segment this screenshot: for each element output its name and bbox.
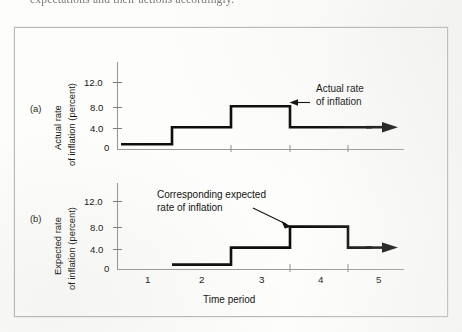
panel-b-annotation-line1: Corresponding expected <box>157 189 266 202</box>
panel-b-annotation-arrow <box>253 208 292 228</box>
xtick-5: 5 <box>376 274 381 285</box>
panel-a-tag: (a) <box>30 103 41 114</box>
panel-a-y-axis-title-line2: of inflation (percent) <box>66 83 78 166</box>
panel-b-step-series <box>172 227 398 265</box>
panel-b-y-axis-title-line1: Expected rate <box>52 217 64 275</box>
panel-b-ytick-0: 0 <box>104 263 109 274</box>
panel-b-ytick-12: 12.0 <box>84 196 103 207</box>
panel-a-annotation-arrow <box>290 99 311 105</box>
panel-b-ytick-4: 4.0 <box>90 244 103 255</box>
panel-a-step-series <box>121 106 398 144</box>
panel-b-annotation-line2: rate of inflation <box>157 202 223 215</box>
panel-b-ytick-8: 8.0 <box>90 222 103 233</box>
panel-a-ytick-12: 12.0 <box>84 77 103 88</box>
panel-a-ytick-8: 8.0 <box>90 102 103 113</box>
panel-b-y-axis-title-line2: of inflation (percent) <box>66 207 78 290</box>
panel-a-y-axis-title-line1: Actual rate <box>52 105 64 150</box>
panel-a-annotation-line1: Actual rate <box>316 83 364 96</box>
xtick-2: 2 <box>199 274 204 285</box>
xtick-1: 1 <box>145 274 150 285</box>
figure-page: expectations and their actions according… <box>0 0 462 332</box>
xtick-4: 4 <box>318 274 323 285</box>
panel-b-tag: (b) <box>30 213 41 224</box>
x-axis-title: Time period <box>203 294 255 305</box>
panel-a-annotation-line2: of inflation <box>316 96 362 109</box>
xtick-3: 3 <box>259 274 264 285</box>
panel-a-ytick-4: 4.0 <box>90 123 103 134</box>
panel-a-ytick-0: 0 <box>104 142 109 153</box>
